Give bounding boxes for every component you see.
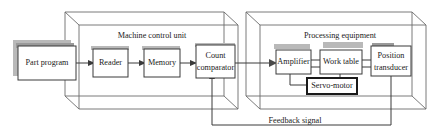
diagram-canvas: Machine control unit Processing equipmen… [0, 0, 440, 136]
mcu-edge-bl [65, 96, 79, 109]
pe-edge-br [412, 96, 426, 109]
label-feedback-signal: Feedback signal [269, 116, 323, 125]
block-reader[interactable]: Reader [91, 46, 129, 77]
block-count-comparator[interactable]: Count comparator [195, 43, 235, 78]
count-comparator-label-line1: Count [205, 51, 226, 60]
part-program-label: Part program [26, 58, 70, 67]
mcu-edge-tl [65, 12, 79, 25]
position-transducer-label-line2: transducer [374, 63, 408, 72]
mcu-edge-br [224, 96, 238, 109]
amplifier-label: Amplifier [277, 57, 310, 66]
container-label-machine-control-unit: Machine control unit [118, 31, 187, 40]
connector-amplifier-servomotor [290, 73, 307, 85]
block-memory[interactable]: Memory [142, 46, 180, 77]
position-transducer-label-line1: Position [378, 51, 405, 60]
pe-edge-bl [246, 96, 260, 109]
count-comparator-label-line2: comparator [197, 63, 235, 72]
work-table-shadow [323, 42, 363, 48]
block-work-table[interactable]: Work table [320, 42, 363, 74]
servo-motor-label: Servo-motor [311, 81, 353, 90]
container-label-processing-equipment: Processing equipment [304, 31, 377, 40]
mcu-edge-tr [224, 12, 238, 25]
pe-edge-tr [412, 12, 426, 25]
block-amplifier[interactable]: Amplifier [274, 44, 311, 74]
amplifier-shadow [274, 44, 310, 49]
block-part-program[interactable]: Part program [13, 40, 76, 80]
memory-label: Memory [148, 58, 177, 67]
block-position-transducer[interactable]: Position transducer [371, 43, 411, 76]
pe-edge-tl [246, 12, 260, 25]
work-table-label: Work table [323, 57, 359, 66]
block-diagram: Machine control unit Processing equipmen… [0, 0, 440, 136]
reader-label: Reader [99, 58, 122, 67]
block-servo-motor[interactable]: Servo-motor [307, 78, 357, 94]
